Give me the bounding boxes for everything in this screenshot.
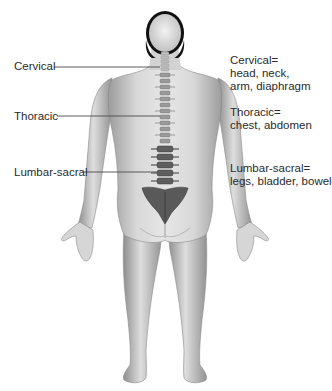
description-cervical-title: Cervical= [230, 54, 311, 67]
description-lumbar-sacral-title: Lumbar-sacral= [230, 162, 332, 175]
description-cervical: Cervical= head, neck, arm, diaphragm [230, 54, 311, 93]
description-lumbar-sacral-line: legs, bladder, bowel [230, 175, 332, 188]
label-lumbar-sacral: Lumbar-sacral [14, 166, 88, 179]
description-thoracic: Thoracic= chest, abdomen [230, 106, 312, 132]
description-cervical-line: arm, diaphragm [230, 80, 311, 93]
description-lumbar-sacral: Lumbar-sacral= legs, bladder, bowel [230, 162, 332, 188]
label-cervical: Cervical [14, 60, 56, 73]
legs [123, 230, 207, 383]
description-cervical-line: head, neck, [230, 67, 311, 80]
description-thoracic-title: Thoracic= [230, 106, 312, 119]
description-thoracic-line: chest, abdomen [230, 119, 312, 132]
label-thoracic: Thoracic [14, 110, 58, 123]
